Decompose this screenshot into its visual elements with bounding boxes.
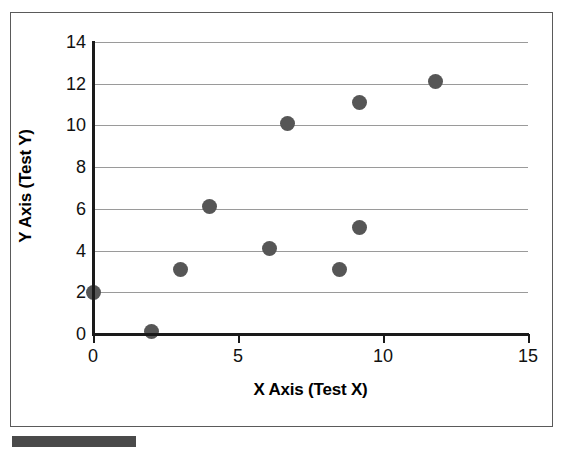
data-point: [202, 199, 217, 214]
gridline-y-4: [93, 251, 528, 252]
gridline-y-14: [93, 42, 528, 43]
x-tick-label-5: 5: [213, 346, 263, 366]
y-tick-label-0: 0: [46, 325, 86, 343]
y-tick-label-10: 10: [46, 116, 86, 134]
scatter-plot-figure: 02468101214 051015 Y Axis (Test Y) X Axi…: [0, 0, 564, 449]
x-tick-0: [93, 334, 95, 343]
x-tick-10: [383, 334, 385, 343]
x-axis-line: [92, 333, 529, 336]
x-axis-title: X Axis (Test X): [93, 380, 528, 400]
data-point: [352, 95, 367, 110]
y-tick-label-4: 4: [46, 242, 86, 260]
data-point: [144, 324, 159, 339]
y-axis-title: Y Axis (Test Y): [16, 86, 36, 286]
y-tick-label-12: 12: [46, 75, 86, 93]
y-axis-tick-labels: 02468101214: [38, 0, 86, 449]
x-tick-5: [238, 334, 240, 343]
caption-bar: [12, 436, 136, 447]
data-point: [173, 262, 188, 277]
y-tick-label-2: 2: [46, 283, 86, 301]
plot-area: [93, 42, 528, 334]
y-tick-label-6: 6: [46, 200, 86, 218]
x-tick-15: [528, 334, 530, 343]
x-tick-label-0: 0: [68, 346, 118, 366]
x-tick-label-10: 10: [358, 346, 408, 366]
y-tick-label-8: 8: [46, 158, 86, 176]
y-tick-label-14: 14: [46, 33, 86, 51]
data-point: [428, 74, 443, 89]
gridline-y-10: [93, 125, 528, 126]
gridline-y-2: [93, 292, 528, 293]
gridline-y-8: [93, 167, 528, 168]
x-tick-label-15: 15: [503, 346, 553, 366]
data-point: [332, 262, 347, 277]
data-point: [352, 220, 367, 235]
data-point: [280, 116, 295, 131]
y-axis-line: [92, 41, 95, 336]
data-point: [262, 241, 277, 256]
gridline-y-6: [93, 209, 528, 210]
gridline-y-12: [93, 84, 528, 85]
